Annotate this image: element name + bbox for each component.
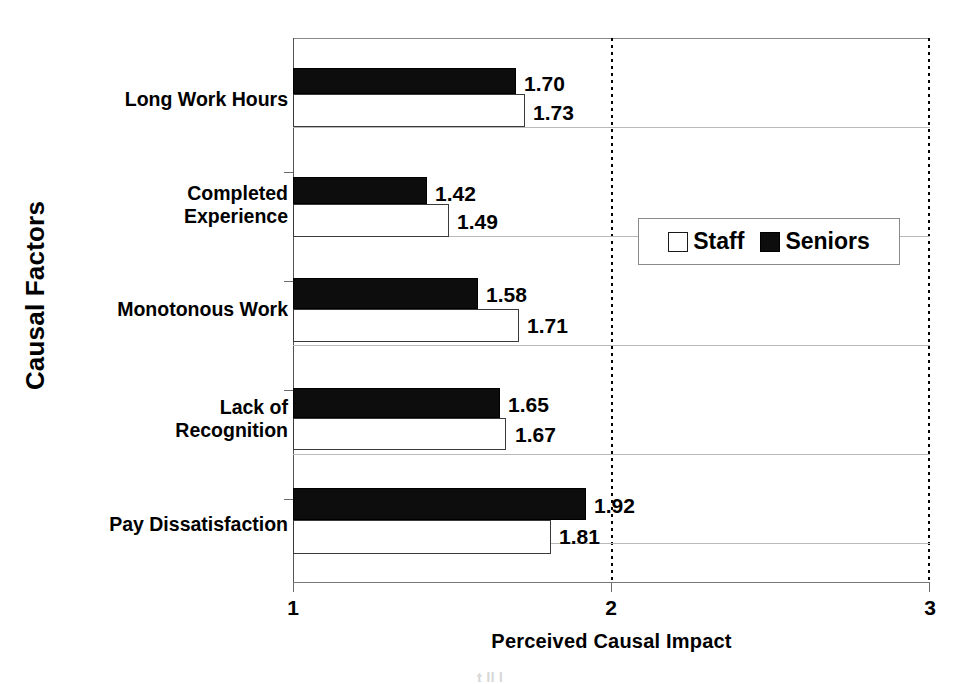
black-square-swatch-icon [760,232,780,252]
category-separator-4 [293,454,930,455]
bar-value-seniors-monotonous-work: 1.58 [486,284,527,305]
bar-value-seniors-lack-of-recognition: 1.65 [508,394,549,415]
x-tick-mark-2 [611,583,612,592]
bar-seniors-lack-of-recognition[interactable] [293,388,500,418]
bar-value-staff-long-work-hours: 1.73 [533,102,574,123]
gridline-x-3 [928,38,930,583]
bar-value-staff-lack-of-recognition: 1.67 [515,424,556,445]
bar-seniors-completed-experience[interactable] [293,177,427,204]
x-axis-title: Perceived Causal Impact [293,630,930,653]
legend-item-seniors[interactable]: Seniors [760,230,869,253]
bar-staff-pay-dissatisfaction[interactable] [293,520,551,554]
legend-item-staff[interactable]: Staff [668,230,744,253]
legend[interactable]: Staff Seniors [638,218,900,265]
x-tick-label-3: 3 [900,596,960,620]
y-tick-mark-3 [284,390,293,391]
y-tick-label-pay-dissatisfaction: Pay Dissatisfaction [28,513,288,536]
white-square-swatch-icon [668,232,688,252]
x-tick-label-2: 2 [581,596,641,620]
bar-value-staff-monotonous-work: 1.71 [527,315,568,336]
y-tick-mark-4 [284,499,293,500]
legend-label-seniors: Seniors [785,230,869,253]
category-separator-3 [293,345,930,346]
y-tick-label-completed-experience: Completed Experience [28,182,288,228]
bar-chart: Causal Factors Long Work Hours Completed… [0,0,971,684]
y-tick-label-long-work-hours: Long Work Hours [28,88,288,111]
y-tick-mark-1 [284,172,293,173]
bar-value-seniors-completed-experience: 1.42 [435,183,476,204]
bar-value-staff-completed-experience: 1.49 [457,211,498,232]
bar-staff-lack-of-recognition[interactable] [293,418,506,450]
bar-seniors-monotonous-work[interactable] [293,278,478,309]
x-tick-mark-3 [929,583,930,592]
y-tick-label-monotonous-work: Monotonous Work [28,298,288,321]
category-separator-1 [293,127,930,128]
bar-seniors-long-work-hours[interactable] [293,68,516,94]
x-tick-label-1: 1 [263,596,323,620]
bar-staff-completed-experience[interactable] [293,204,449,237]
bar-value-seniors-pay-dissatisfaction: 1.92 [594,495,635,516]
scan-artifact-text: t ll l [330,669,650,682]
plot-area: 1.70 1.73 1.42 1.49 1.58 1.71 1.65 1.67 … [293,38,930,583]
bar-staff-long-work-hours[interactable] [293,94,525,127]
bar-staff-monotonous-work[interactable] [293,309,519,342]
x-tick-mark-1 [293,583,294,592]
bar-value-staff-pay-dissatisfaction: 1.81 [559,526,600,547]
y-tick-mark-2 [284,281,293,282]
bar-seniors-pay-dissatisfaction[interactable] [293,488,586,520]
bar-value-seniors-long-work-hours: 1.70 [524,73,565,94]
y-tick-label-lack-of-recognition: Lack of Recognition [28,396,288,442]
legend-label-staff: Staff [693,230,744,253]
